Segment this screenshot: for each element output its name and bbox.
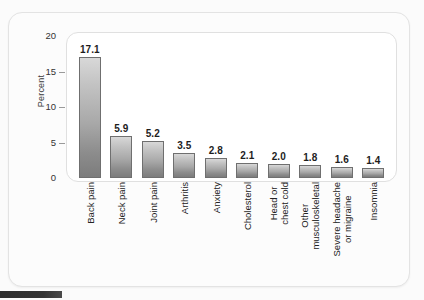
x-axis-label: Back pain [79, 182, 101, 284]
bar-slot: 2.1 [236, 32, 258, 178]
y-axis-tick-label: 5 [16, 137, 56, 148]
y-axis-tick-mark [59, 143, 65, 144]
x-axis-baseline [62, 178, 398, 179]
chart-screenshot: Percent 05101520 17.15.95.23.52.82.12.01… [0, 0, 424, 300]
bar-value-label: 1.4 [353, 155, 393, 166]
x-axis-label: Joint pain [142, 182, 164, 284]
bar-slot: 1.4 [362, 32, 384, 178]
x-axis-label-text: Head orchest cold [268, 182, 290, 225]
x-axis-label: Cholesterol [236, 182, 258, 284]
x-axis-label-text: Arthritis [179, 182, 190, 214]
x-axis-label-text: Neck pain [116, 182, 127, 224]
x-axis-labels: Back painNeck painJoint painArthritisAnx… [66, 182, 395, 287]
x-axis-label: Othermusculoskeletal [299, 182, 321, 284]
bar-slot: 17.1 [79, 32, 101, 178]
x-axis-label-text: Othermusculoskeletal [299, 182, 321, 250]
x-axis-label-text: Joint pain [147, 182, 158, 223]
y-axis-title: Percent [36, 46, 46, 136]
bar[interactable] [110, 136, 132, 178]
bar[interactable] [362, 168, 384, 178]
bar-slot: 5.2 [142, 32, 164, 178]
bar[interactable] [142, 141, 164, 178]
bar[interactable] [331, 167, 353, 178]
x-axis-label-text: Back pain [84, 182, 95, 224]
x-axis-label-text: Severe headacheor migraine [331, 182, 353, 256]
bar[interactable] [299, 165, 321, 178]
bottom-edge-strip [0, 291, 62, 298]
x-axis-label-text: Anxiety [210, 182, 221, 213]
bar-series: 17.15.95.23.52.82.12.01.81.61.4 [66, 32, 395, 178]
y-axis-tick-label: 15 [16, 66, 56, 77]
x-axis-label: Anxiety [205, 182, 227, 284]
x-axis-label: Insomnia [362, 182, 384, 284]
bar-slot: 1.8 [299, 32, 321, 178]
y-axis-tick-label: 10 [16, 101, 56, 112]
x-axis-label-text: Cholesterol [242, 182, 253, 230]
bar-value-label: 5.2 [133, 128, 173, 139]
bar-value-label: 17.1 [70, 44, 110, 55]
x-axis-label: Head orchest cold [268, 182, 290, 284]
y-axis-tick-label: 20 [16, 30, 56, 41]
bar[interactable] [236, 163, 258, 178]
x-axis-label: Severe headacheor migraine [331, 182, 353, 284]
bar[interactable] [79, 57, 101, 178]
x-axis-label-text: Insomnia [368, 182, 379, 221]
bar[interactable] [268, 164, 290, 178]
bar-slot: 2.8 [205, 32, 227, 178]
bar-slot: 3.5 [173, 32, 195, 178]
y-axis-tick-label: 0 [16, 172, 56, 183]
bar[interactable] [173, 153, 195, 178]
bar-slot: 2.0 [268, 32, 290, 178]
y-axis-tick-mark [59, 72, 65, 73]
bar-slot: 5.9 [110, 32, 132, 178]
bar[interactable] [205, 158, 227, 178]
x-axis-label: Neck pain [110, 182, 132, 284]
x-axis-label: Arthritis [173, 182, 195, 284]
y-axis-tick-mark [59, 107, 65, 108]
bar-slot: 1.6 [331, 32, 353, 178]
